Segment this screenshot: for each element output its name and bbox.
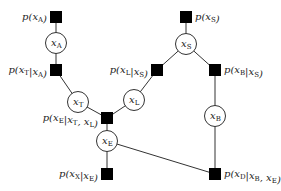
- factor-square: [50, 64, 62, 76]
- variable-node-xA: xA: [46, 33, 67, 54]
- factor-node-pDBE: p(xD|xB, xE): [209, 168, 281, 185]
- factor-label: p(xX|xE): [59, 168, 98, 183]
- factor-graph: xAxTxLxSxBxE p(xA)p(xT|xA)p(xS)p(xL|xS)p…: [0, 0, 281, 191]
- factor-square: [50, 11, 62, 23]
- factor-label: p(xS): [195, 11, 220, 24]
- factor-square: [180, 11, 192, 23]
- factor-label: p(xL|xS): [110, 64, 148, 79]
- factor-label: p(xA): [22, 11, 47, 24]
- factor-node-pLS: p(xL|xS): [110, 64, 163, 79]
- factor-label: p(xB|xS): [224, 64, 263, 79]
- variable-node-xS: xS: [176, 34, 197, 55]
- factor-label: p(xT|xA): [8, 64, 47, 79]
- factor-square: [209, 64, 221, 76]
- factor-square: [101, 112, 113, 124]
- factor-label: p(xD|xB, xE): [224, 168, 281, 185]
- variable-node-xE: xE: [97, 131, 118, 152]
- factor-node-pXE: p(xX|xE): [59, 168, 113, 183]
- factor-node-pS: p(xS): [180, 11, 220, 24]
- factor-label: p(xE|xT, xL): [43, 112, 98, 129]
- factor-square: [209, 168, 221, 180]
- variable-node-xB: xB: [205, 106, 226, 127]
- variable-node-xT: xT: [68, 92, 89, 113]
- variable-node-xL: xL: [124, 90, 145, 111]
- factor-node-pA: p(xA): [22, 11, 62, 24]
- factor-node-pBS: p(xB|xS): [209, 64, 263, 79]
- factor-node-pETL: p(xE|xT, xL): [43, 112, 113, 129]
- factor-square: [151, 64, 163, 76]
- factor-square: [101, 168, 113, 180]
- factor-node-pTA: p(xT|xA): [8, 64, 62, 79]
- variable-nodes: xAxTxLxSxBxE: [46, 33, 226, 152]
- edge-xE-pDBE: [107, 141, 215, 174]
